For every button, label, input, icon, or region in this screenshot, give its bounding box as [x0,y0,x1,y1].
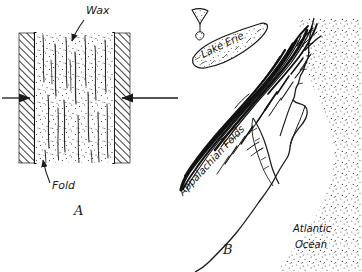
panel-a-letter: A [73,203,83,218]
panel-a: Wax Fold A [0,0,181,272]
wax-label: Wax [86,4,110,17]
panel-b-letter: B [222,242,233,257]
figure-canvas: Wax Fold A [0,0,362,272]
fold-label: Fold [52,179,76,192]
panel-b: Lake Erie Appalachian Folds Atlantic Oce… [181,0,362,272]
atlantic-ocean-label-line1: Atlantic [292,223,332,234]
appalachian-folds-label: Appalachian Folds [176,123,247,198]
small-lake-outline [192,9,208,40]
panel-b-drawing: Lake Erie Appalachian Folds Atlantic Oce… [181,0,362,272]
panel-a-drawing: Wax Fold A [0,0,181,272]
atlantic-ocean-label-line2: Ocean [295,239,327,250]
fold-label-leader [43,160,50,183]
